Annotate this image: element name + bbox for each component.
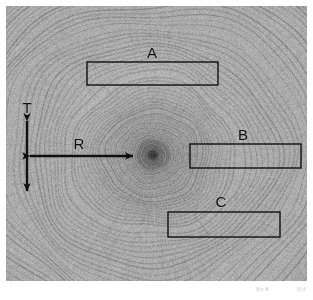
tangential-axis-label: T [0, 100, 57, 115]
sample-region-b[interactable] [190, 144, 301, 168]
sample-region-a[interactable] [87, 62, 218, 85]
region-label-a: A [122, 45, 182, 60]
watermark-left: 阪大 産 [256, 287, 269, 292]
sample-region-c[interactable] [168, 212, 280, 237]
region-label-c: C [191, 194, 251, 209]
radial-axis-label: R [49, 136, 109, 151]
watermark-right: 研 ほ [297, 287, 306, 292]
region-label-b: B [213, 127, 273, 142]
figure-root: A B C T R 阪大 産 研 ほ [0, 0, 313, 300]
